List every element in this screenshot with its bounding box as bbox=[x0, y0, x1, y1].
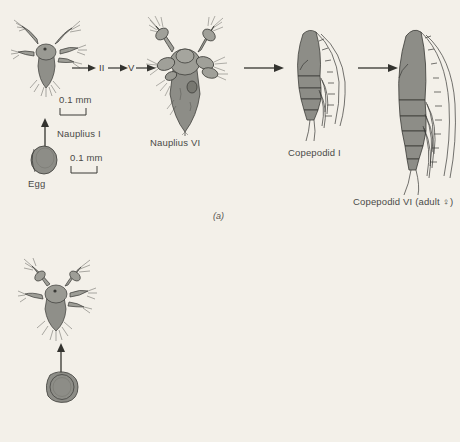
arrow-nauplius-to-copepodid-panel-a bbox=[244, 60, 284, 76]
organism-nauplius-vi-panel-a bbox=[140, 14, 236, 136]
scalebar-label-egg-panel-a: 0.1 mm bbox=[70, 153, 103, 163]
scalebar-label-nauplius-panel-a: 0.1 mm bbox=[59, 95, 92, 105]
stage-label-nauplius-i-panel-a: Nauplius I bbox=[57, 129, 101, 139]
organism-nauplius-i-panel-b bbox=[18, 257, 98, 343]
scalebar-nauplius-panel-a bbox=[59, 107, 89, 116]
organism-copepodid-vi-panel-a bbox=[394, 18, 458, 196]
arrow-copepodid-i-to-vi-panel-a bbox=[358, 60, 398, 76]
transition-label-v-panel-a: V bbox=[128, 63, 134, 73]
panel-tag-a: (a) bbox=[213, 211, 224, 221]
panel-a: II V bbox=[0, 0, 460, 221]
stage-label-egg-panel-a: Egg bbox=[28, 179, 45, 189]
figure-copepod-life-cycles: II V bbox=[0, 0, 460, 442]
scalebar-egg-panel-a bbox=[70, 165, 100, 174]
stage-label-nauplius-vi-panel-a: Nauplius VI bbox=[150, 138, 200, 148]
organism-egg-panel-b bbox=[42, 369, 82, 405]
stage-label-copepodid-i-panel-a: Copepodid I bbox=[288, 148, 341, 158]
organism-egg-panel-a bbox=[27, 144, 61, 176]
stage-label-copepodid-vi-panel-a: Copepodid VI (adult ♀) bbox=[353, 197, 453, 207]
transition-label-ii-panel-a: II bbox=[99, 63, 104, 73]
organism-copepodid-i-panel-a bbox=[292, 20, 352, 142]
panel-b: II V bbox=[0, 221, 460, 442]
